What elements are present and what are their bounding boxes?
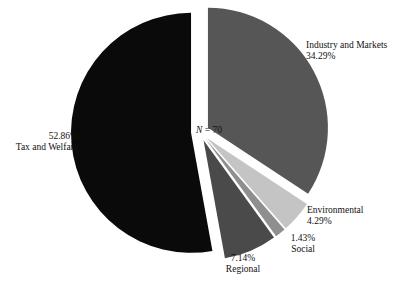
- slice-label-social: 1.43% Social: [272, 233, 334, 255]
- slice-label-name-environmental: Environmental: [307, 205, 363, 216]
- slice-label-percent-environmental: 4.29%: [307, 216, 363, 227]
- slice-label-regional: 7.14% Regional: [212, 253, 274, 275]
- slice-label-name-industry-and-markets: Industry and Markets: [306, 40, 387, 51]
- slice-label-industry-and-markets: Industry and Markets 34.29%: [306, 40, 387, 62]
- slice-label-percent-regional: 7.14%: [212, 253, 274, 264]
- pie-slice-tax-and-welfare: [71, 13, 212, 253]
- slice-label-percent-tax-and-welfare: 52.86%: [0, 131, 78, 142]
- slice-label-environmental: Environmental 4.29%: [307, 205, 363, 227]
- slice-label-name-social: Social: [272, 244, 334, 255]
- slice-label-name-regional: Regional: [212, 264, 274, 275]
- slice-label-percent-industry-and-markets: 34.29%: [306, 51, 387, 62]
- sample-size-value: = 70: [202, 125, 222, 135]
- slice-label-percent-social: 1.43%: [272, 233, 334, 244]
- slice-label-name-tax-and-welfare: Tax and Welfare: [0, 142, 78, 153]
- sample-size-annotation: N = 70: [196, 125, 222, 135]
- slice-label-tax-and-welfare: 52.86% Tax and Welfare: [0, 131, 78, 153]
- pie-chart-figure: Industry and Markets 34.29% 52.86% Tax a…: [0, 0, 417, 287]
